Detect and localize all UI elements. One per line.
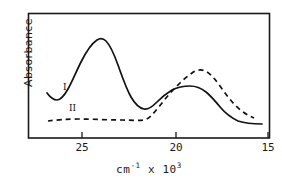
curve-label-ii: II — [69, 103, 76, 113]
y-axis-label: Absorbance — [22, 0, 35, 113]
absorbance-spectrum-figure: Absorbance 25 20 15 cm-1 x 103 I II — [0, 0, 282, 193]
x-axis-label: cm-1 x 103 — [28, 163, 270, 176]
curve-label-i: I — [63, 82, 67, 92]
x-axis-label-multiplier: x 10 — [141, 163, 177, 176]
x-axis-label-power: 3 — [177, 161, 182, 170]
x-tick-label-25: 25 — [67, 141, 97, 154]
x-tick-label-20: 20 — [161, 141, 191, 154]
x-axis-label-exponent: -1 — [130, 161, 140, 170]
x-tick-label-15: 15 — [253, 141, 282, 154]
x-axis-label-unit: cm — [116, 163, 130, 176]
